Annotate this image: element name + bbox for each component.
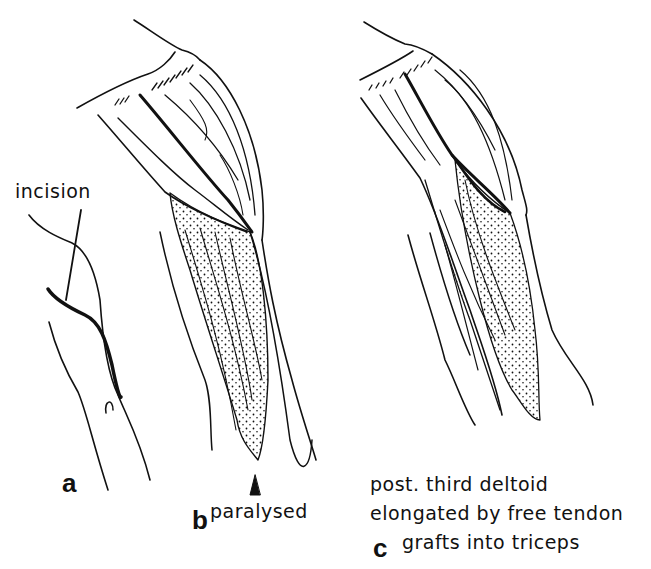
paralysed-label: paralysed (210, 500, 308, 522)
caption-line-2: elongated by free tendon (370, 499, 623, 528)
arrow-up-icon (250, 475, 260, 495)
caption-line-3: grafts into triceps (402, 528, 623, 557)
panel-c-caption: post. third deltoid elongated by free te… (370, 470, 623, 557)
incision-label: incision (15, 180, 91, 202)
figure-canvas: incision paralysed a b c post. third del… (0, 0, 651, 569)
panel-letter-a: a (62, 468, 76, 499)
panel-letter-b: b (192, 505, 208, 536)
caption-line-1: post. third deltoid (370, 470, 623, 499)
panel-a-arm (29, 210, 150, 490)
panel-b-arm (77, 20, 316, 495)
panel-c-arm (360, 22, 593, 425)
